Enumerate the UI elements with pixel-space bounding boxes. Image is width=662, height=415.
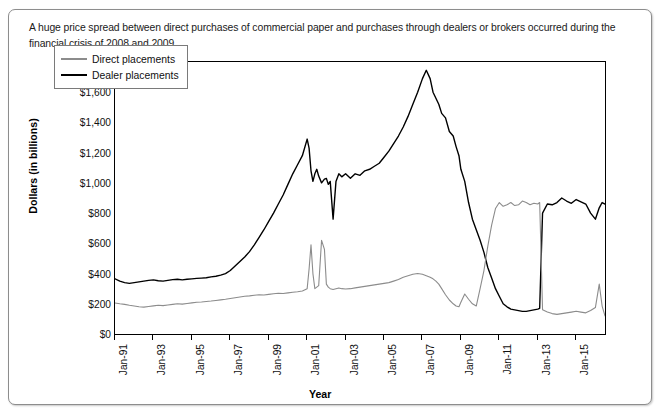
series-line bbox=[115, 201, 605, 316]
x-tick-label: Jan-09 bbox=[464, 344, 475, 375]
x-tick-label: Jan-99 bbox=[272, 344, 283, 375]
x-tick-label: Jan-13 bbox=[541, 344, 552, 375]
x-tick-mark bbox=[306, 335, 307, 340]
y-tick-label: $1,000 bbox=[53, 177, 111, 188]
x-tick-mark bbox=[460, 335, 461, 340]
x-tick-mark bbox=[114, 335, 115, 340]
x-tick-label: Jan-03 bbox=[349, 344, 360, 375]
x-tick-label: Jan-11 bbox=[502, 344, 513, 374]
plot-area bbox=[114, 61, 606, 335]
x-tick-label: Jan-07 bbox=[425, 344, 436, 375]
legend-label-dealer: Dealer placements bbox=[92, 70, 179, 81]
x-axis-title: Year bbox=[309, 388, 331, 400]
x-tick-mark bbox=[229, 335, 230, 340]
x-tick-mark bbox=[345, 335, 346, 340]
x-tick-mark bbox=[383, 335, 384, 340]
legend-swatch-direct-icon bbox=[61, 58, 87, 60]
y-axis-title: Dollars (in billions) bbox=[27, 96, 39, 236]
chart-legend: Direct placements Dealer placements bbox=[54, 45, 188, 89]
x-tick-mark bbox=[421, 335, 422, 340]
x-tick-label: Jan-05 bbox=[387, 344, 398, 375]
series-svg bbox=[115, 62, 605, 334]
legend-swatch-dealer-icon bbox=[61, 74, 87, 76]
chart-container: Dollars (in billions) $1,800$1,600$1,400… bbox=[9, 10, 652, 405]
series-line bbox=[115, 70, 605, 311]
x-tick-label: Jan-95 bbox=[195, 344, 206, 375]
figure-frame: A huge price spread between direct purch… bbox=[8, 9, 652, 405]
x-tick-mark bbox=[268, 335, 269, 340]
y-tick-label: $1,400 bbox=[53, 117, 111, 128]
x-tick-label: Jan-97 bbox=[233, 344, 244, 375]
x-tick-mark bbox=[575, 335, 576, 340]
y-tick-label: $800 bbox=[53, 208, 111, 219]
x-tick-mark bbox=[498, 335, 499, 340]
y-tick-label: $400 bbox=[53, 268, 111, 279]
y-tick-label: $600 bbox=[53, 238, 111, 249]
legend-label-direct: Direct placements bbox=[92, 54, 175, 65]
x-tick-mark bbox=[152, 335, 153, 340]
x-tick-mark bbox=[537, 335, 538, 340]
legend-item-direct: Direct placements bbox=[61, 51, 179, 67]
x-tick-label: Jan-01 bbox=[310, 344, 321, 375]
x-tick-label: Jan-91 bbox=[118, 344, 129, 375]
x-tick-label: Jan-93 bbox=[156, 344, 167, 375]
y-tick-label: $1,200 bbox=[53, 147, 111, 158]
y-tick-label: $0 bbox=[53, 329, 111, 340]
legend-item-dealer: Dealer placements bbox=[61, 67, 179, 83]
x-tick-label: Jan-15 bbox=[579, 344, 590, 375]
x-tick-mark bbox=[191, 335, 192, 340]
y-tick-label: $200 bbox=[53, 298, 111, 309]
y-axis-tick-labels: $1,800$1,600$1,400$1,200$1,000$800$600$4… bbox=[49, 61, 111, 335]
